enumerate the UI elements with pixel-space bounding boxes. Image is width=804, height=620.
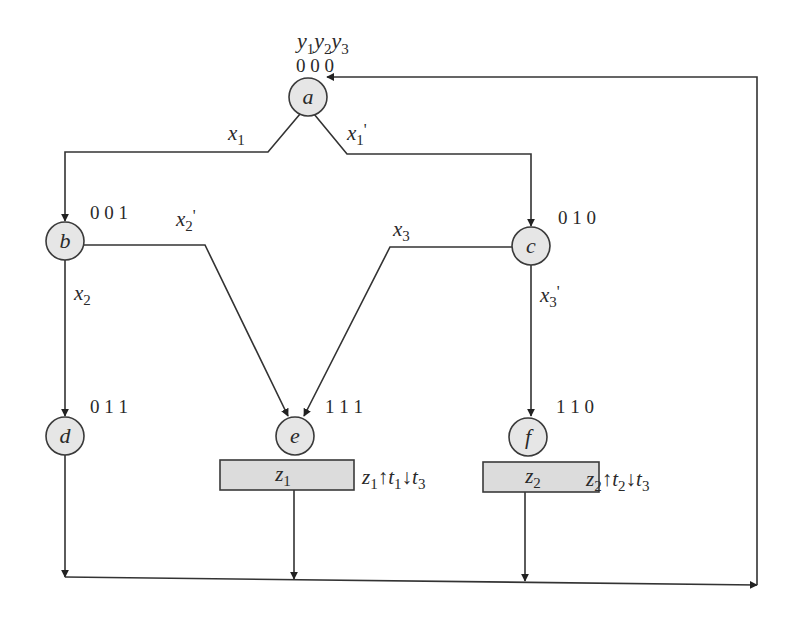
node-e: e 1 1 1 (276, 396, 363, 455)
output-box-z1: z1 z1↑t1↓t3 (220, 460, 425, 492)
state-diagram: y1y2y3 a 0 0 0 b 0 0 1 c 0 1 0 d 0 1 1 (0, 0, 804, 620)
node-f-code: 1 1 0 (556, 396, 594, 417)
node-d-label: d (60, 423, 72, 448)
node-a: a 0 0 0 (289, 55, 334, 116)
state-vars-label: y1y2y3 (295, 28, 349, 57)
edge-b-to-e (83, 245, 288, 416)
node-f: f 1 1 0 (509, 396, 594, 456)
cond-x1: x1 (227, 121, 245, 148)
node-b-label: b (60, 228, 71, 253)
cond-x3: x3 (392, 217, 410, 244)
node-e-code: 1 1 1 (325, 396, 363, 417)
cond-x3-prime: x3' (539, 283, 560, 310)
node-a-label: a (303, 84, 314, 109)
node-a-code: 0 0 0 (296, 55, 334, 76)
state-variables-header: y1y2y3 (295, 28, 349, 57)
cond-x2: x2 (73, 281, 91, 308)
node-b: b 0 0 1 (46, 202, 128, 260)
return-bus (65, 577, 757, 585)
cond-x1-prime: x1' (346, 121, 367, 148)
node-c-label: c (526, 233, 536, 258)
edge-c-to-e (304, 247, 513, 416)
node-c-code: 0 1 0 (558, 207, 596, 228)
node-b-code: 0 0 1 (90, 202, 128, 223)
node-e-label: e (290, 423, 300, 448)
action-z1-t1-t3: z1↑t1↓t3 (361, 465, 425, 492)
output-box-z2: z2 z2↑t2↓t3 (483, 462, 649, 494)
node-d: d 0 1 1 (46, 396, 128, 455)
cond-x2-prime: x2' (175, 207, 196, 234)
node-c: c 0 1 0 (512, 207, 596, 265)
node-d-code: 0 1 1 (90, 396, 128, 417)
